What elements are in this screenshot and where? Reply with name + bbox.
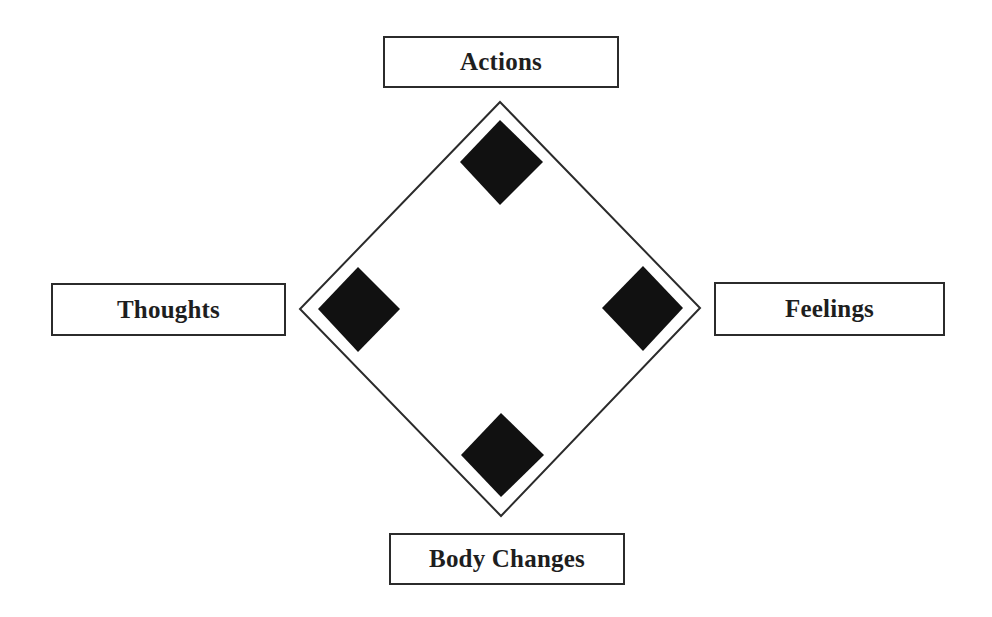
diagram-canvas: Actions Thoughts Feelings Body Changes [0,0,992,617]
thoughts-box: Thoughts [51,283,286,336]
thoughts-label: Thoughts [117,296,220,324]
body-changes-label: Body Changes [429,545,585,573]
feelings-box: Feelings [714,282,945,336]
body-changes-box: Body Changes [389,533,625,585]
actions-box: Actions [383,36,619,88]
actions-label: Actions [460,48,542,76]
feelings-label: Feelings [785,295,874,323]
